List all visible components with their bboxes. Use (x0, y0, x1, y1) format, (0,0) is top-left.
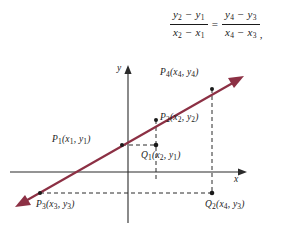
point-label-p1: P1(x1, y1) (52, 134, 91, 146)
equals-sign: = (208, 18, 222, 30)
slope-equality-formula: y2 − y1 x2 − x1 = y4 − y3 x4 − x3 , (170, 8, 263, 41)
left-numerator: y2 − y1 (170, 8, 208, 22)
figure-page: y2 − y1 x2 − x1 = y4 − y3 x4 − x3 , (0, 0, 301, 239)
point-label-q2: Q2(x4, y3) (205, 199, 245, 211)
right-fraction-bar (222, 24, 260, 25)
point-label-q1: Q1(x2, y1) (141, 150, 181, 162)
right-denominator: x4 − x3 (222, 26, 260, 40)
point-dot-p4 (210, 87, 214, 91)
right-fraction: y4 − y3 x4 − x3 (222, 8, 260, 41)
y-axis-label: y (117, 63, 121, 73)
formula-trailing-comma: , (260, 28, 263, 41)
coordinate-diagram: y x P1(x1, y1) P2(x2, y2) P3(x3, y3) P4(… (0, 55, 301, 239)
left-denominator: x2 − x1 (170, 26, 208, 40)
point-label-p4: P4(x4, y4) (160, 67, 199, 79)
point-dot-q1 (154, 143, 159, 148)
point-label-p2: P2(x2, y2) (160, 112, 199, 124)
left-fraction-bar (170, 24, 208, 25)
left-fraction: y2 − y1 x2 − x1 (170, 8, 208, 41)
line-arrow-upper-right (228, 76, 244, 88)
line-arrow-lower-left (15, 195, 31, 207)
graph-line (15, 76, 244, 207)
point-dot-p2 (154, 118, 158, 122)
point-label-p3: P3(x3, y3) (36, 199, 75, 211)
point-dot-q2 (210, 191, 215, 196)
point-dot-p1 (120, 143, 124, 147)
right-numerator: y4 − y3 (222, 8, 260, 22)
x-axis-label: x (234, 174, 238, 184)
point-dot-p3 (38, 191, 42, 195)
